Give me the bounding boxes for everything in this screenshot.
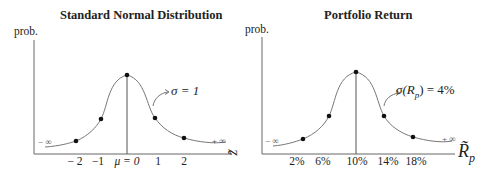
right-tick-10pct: 10%: [346, 155, 367, 167]
left-tick-minus2: − 2: [67, 155, 82, 167]
left-sigma-label: σ = 1: [171, 83, 199, 99]
left-point-peak: [125, 73, 130, 78]
right-tick-2pct: 2%: [289, 155, 304, 167]
right-neg-infinity-label: − ∞: [265, 136, 279, 146]
left-y-axis-label: prob.: [14, 25, 38, 37]
right-point-peak: [354, 70, 359, 75]
right-tick-6pct: 6%: [315, 155, 330, 167]
left-tick-plus2: 2: [181, 155, 187, 167]
right-point-18pct: [411, 135, 416, 140]
right-chart-title: Portfolio Return: [324, 8, 413, 23]
right-x-variable: R̃: [458, 141, 469, 161]
right-point-2pct: [301, 137, 306, 142]
right-sigma-label: σ(Rp) = 4%: [396, 82, 455, 100]
left-tick-minus1: −1: [92, 155, 104, 167]
left-tick-mean: μ = 0: [114, 155, 139, 167]
right-point-14pct: [382, 114, 387, 119]
right-y-axis-label: prob.: [245, 23, 269, 35]
left-x-variable-label: z̃: [224, 150, 241, 156]
right-pos-infinity-label: + ∞: [442, 134, 456, 144]
right-x-variable-subscript: p: [469, 151, 475, 165]
right-sigma-prefix: σ(R: [396, 82, 415, 97]
left-point-plus1: [153, 116, 158, 121]
left-tick-plus1: 1: [155, 155, 161, 167]
left-chart-title: Standard Normal Distribution: [60, 8, 223, 23]
left-point-minus2: [74, 139, 79, 144]
right-point-6pct: [327, 114, 332, 119]
left-neg-infinity-label: − ∞: [38, 137, 52, 147]
left-point-plus2: [182, 136, 187, 141]
right-tick-14pct: 14%: [377, 155, 398, 167]
left-chart: [34, 40, 232, 154]
left-pos-infinity-label: + ∞: [212, 136, 226, 146]
left-point-minus1: [99, 117, 104, 122]
right-x-variable-label: R̃p: [458, 141, 475, 166]
right-sigma-value: ) = 4%: [419, 82, 455, 97]
right-tick-18pct: 18%: [405, 155, 426, 167]
